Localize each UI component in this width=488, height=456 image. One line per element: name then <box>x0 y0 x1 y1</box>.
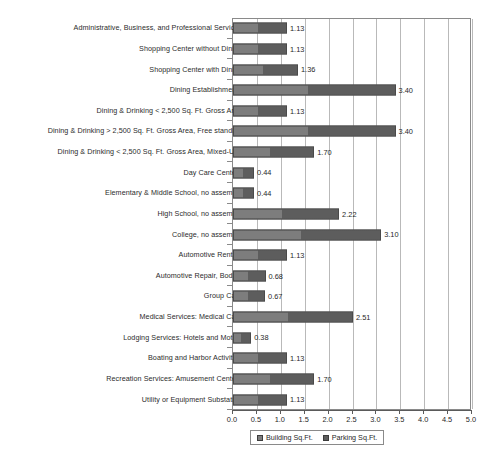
x-axis-tick <box>447 410 448 414</box>
bar <box>233 312 353 323</box>
category-label: Shopping Center without Dining <box>10 45 242 52</box>
chart-row: Dining & Drinking < 2,500 Sq. Ft. Gross … <box>0 101 488 122</box>
x-axis-tick-label: 4.5 <box>442 415 452 424</box>
bar-value-label: 1.13 <box>290 396 304 403</box>
category-label: Boating and Harbor Activities <box>10 355 242 362</box>
x-axis-tick <box>232 410 233 414</box>
x-axis-tick <box>399 410 400 414</box>
x-axis-tick <box>256 410 257 414</box>
bar-group: 0.68 <box>233 270 283 281</box>
bar-value-label: 1.36 <box>301 66 315 73</box>
bar-value-label: 1.70 <box>317 375 331 382</box>
category-label: Medical Services: Medical Care <box>10 313 242 320</box>
bar-group: 0.44 <box>233 188 271 199</box>
x-axis-tick-label: 5.0 <box>466 415 476 424</box>
bar-value-label: 2.51 <box>356 313 370 320</box>
chart-row: Dining & Drinking > 2,500 Sq. Ft. Gross … <box>0 121 488 142</box>
category-label: Dining & Drinking > 2,500 Sq. Ft. Gross … <box>10 128 242 135</box>
bar-group: 1.70 <box>233 373 332 384</box>
category-label: High School, no assembly <box>10 210 242 217</box>
bar-group: 2.22 <box>233 208 357 219</box>
bar-group: 1.36 <box>233 64 315 75</box>
chart-row: Dining & Drinking < 2,500 Sq. Ft. Gross … <box>0 142 488 163</box>
chart-row: Automotive Repair, Bodies0.68 <box>0 266 488 287</box>
chart-row: Recreation Services: Amusement Centers1.… <box>0 369 488 390</box>
bar-group: 1.70 <box>233 147 332 158</box>
x-axis-tick-label: 2.0 <box>322 415 332 424</box>
chart-row: Shopping Center with Dining1.36 <box>0 59 488 80</box>
category-label: Lodging Services: Hotels and Motels <box>10 334 242 341</box>
x-axis-tick <box>471 410 472 414</box>
bar <box>233 85 396 96</box>
bar <box>233 43 287 54</box>
bar <box>233 167 254 178</box>
category-label: Day Care Centers <box>10 169 242 176</box>
chart-row: Utility or Equipment Substation1.13 <box>0 389 488 410</box>
bar-value-label: 1.13 <box>290 355 304 362</box>
chart-row: Administrative, Business, and Profession… <box>0 18 488 39</box>
category-label: Elementary & Middle School, no assembly <box>10 190 242 197</box>
bar-value-label: 0.44 <box>257 190 271 197</box>
chart-row: High School, no assembly2.22 <box>0 204 488 225</box>
category-label: Dining & Drinking < 2,500 Sq. Ft. Gross … <box>10 148 242 155</box>
x-axis-tick <box>352 410 353 414</box>
bar-group: 0.38 <box>233 332 269 343</box>
category-label: Group Care <box>10 293 242 300</box>
legend-swatch-icon <box>257 435 263 441</box>
bar-group: 3.40 <box>233 126 413 137</box>
chart-row: Shopping Center without Dining1.13 <box>0 39 488 60</box>
category-label: College, no assembly <box>10 231 242 238</box>
x-axis-tick <box>423 410 424 414</box>
bar-value-label: 3.40 <box>399 86 413 93</box>
bar-group: 0.67 <box>233 291 282 302</box>
bar-value-label: 0.68 <box>269 272 283 279</box>
x-axis-tick-label: 0.0 <box>227 415 237 424</box>
bar <box>233 147 314 158</box>
bar-value-label: 1.13 <box>290 25 304 32</box>
category-label: Dining Establishments <box>10 87 242 94</box>
chart-row: Day Care Centers0.44 <box>0 162 488 183</box>
bar-chart: Administrative, Business, and Profession… <box>0 0 488 456</box>
bar-group: 1.13 <box>233 105 304 116</box>
bar <box>233 229 381 240</box>
bar <box>233 23 287 34</box>
chart-legend: Building Sq.Ft.Parking Sq.Ft. <box>250 430 384 445</box>
x-axis-tick <box>328 410 329 414</box>
x-axis-tick-label: 3.0 <box>370 415 380 424</box>
bar <box>233 188 254 199</box>
legend-label: Parking Sq.Ft. <box>332 433 378 442</box>
bar-value-label: 0.67 <box>268 293 282 300</box>
bar <box>233 353 287 364</box>
chart-row: Boating and Harbor Activities1.13 <box>0 348 488 369</box>
bar-value-label: 2.22 <box>342 210 356 217</box>
bar-value-label: 3.40 <box>399 128 413 135</box>
x-axis-tick <box>375 410 376 414</box>
bar-value-label: 3.10 <box>384 231 398 238</box>
x-axis-tick-label: 1.5 <box>299 415 309 424</box>
bar <box>233 394 287 405</box>
x-axis-tick-label: 2.5 <box>346 415 356 424</box>
bar-value-label: 0.44 <box>257 169 271 176</box>
bar-value-label: 1.70 <box>317 148 331 155</box>
legend-item: Building Sq.Ft. <box>257 433 313 442</box>
legend-item: Parking Sq.Ft. <box>323 433 378 442</box>
bar-group: 1.13 <box>233 250 304 261</box>
bar <box>233 250 287 261</box>
bar-group: 2.51 <box>233 312 370 323</box>
bar-group: 1.13 <box>233 23 304 34</box>
bar <box>233 64 298 75</box>
bar <box>233 270 266 281</box>
bar <box>233 291 265 302</box>
chart-row: Lodging Services: Hotels and Motels0.38 <box>0 327 488 348</box>
bar <box>233 373 314 384</box>
bar-group: 0.44 <box>233 167 271 178</box>
x-axis-tick-label: 0.5 <box>251 415 261 424</box>
category-label: Recreation Services: Amusement Centers <box>10 375 242 382</box>
chart-row: Elementary & Middle School, no assembly0… <box>0 183 488 204</box>
bar-value-label: 1.13 <box>290 251 304 258</box>
bar-value-label: 0.38 <box>254 334 268 341</box>
chart-row: Group Care0.67 <box>0 286 488 307</box>
bar <box>233 332 251 343</box>
x-axis-tick-label: 3.5 <box>394 415 404 424</box>
chart-row: College, no assembly3.10 <box>0 224 488 245</box>
